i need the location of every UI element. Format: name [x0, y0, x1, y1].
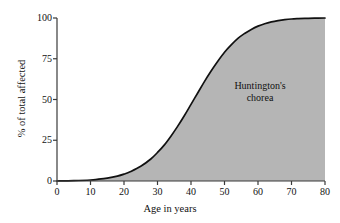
- x-tick-label: 30: [143, 187, 173, 197]
- x-tick-label: 10: [76, 187, 106, 197]
- huntingtons-chorea-chart: 0255075100 01020304050607080 Age in year…: [0, 0, 340, 223]
- x-tick-label: 70: [277, 187, 307, 197]
- x-tick-label: 0: [42, 187, 72, 197]
- x-tick-marks: [57, 181, 325, 185]
- y-axis-title: % of total affected: [16, 14, 27, 184]
- x-axis-title: Age in years: [0, 203, 340, 214]
- x-tick-label: 60: [243, 187, 273, 197]
- annotation-line-2: chorea: [212, 92, 308, 104]
- x-tick-label: 50: [210, 187, 240, 197]
- x-tick-label: 20: [109, 187, 139, 197]
- x-tick-label: 40: [176, 187, 206, 197]
- x-tick-label: 80: [310, 187, 340, 197]
- curve-annotation-label: Huntington's chorea: [212, 80, 308, 104]
- annotation-line-1: Huntington's: [212, 80, 308, 92]
